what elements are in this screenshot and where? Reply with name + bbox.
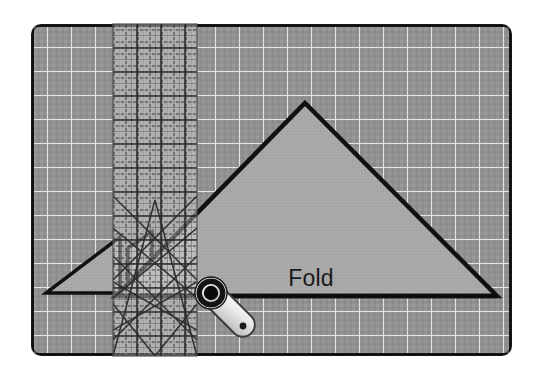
illustration-canvas: Fold [0, 0, 535, 377]
quilting-ruler[interactable] [113, 24, 197, 356]
handle-screw-dot [240, 323, 247, 330]
cutting-mat-illustration: Fold [0, 0, 535, 377]
blade-hub [204, 286, 218, 300]
fold-label: Fold [288, 265, 334, 291]
ruler-markings [113, 24, 197, 356]
